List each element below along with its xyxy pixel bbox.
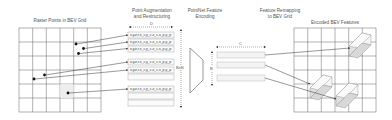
diagram-canvas: [0, 0, 392, 120]
pointnet-encoder: [190, 48, 203, 93]
d-label: D: [150, 21, 153, 26]
point-row-3: x,y,z,r,x_c,y_c,z_c,x_p,y_p: [130, 46, 171, 52]
point-row-5: x,y,z,r,x_c,y_c,z_c,x_p,y_p: [130, 67, 171, 73]
point-row-1: x,y,z,r,x_c,y_c,z_c,x_p,y_p: [130, 32, 171, 38]
feature-cube-2: [310, 75, 332, 100]
feature-cube-3: [336, 83, 358, 108]
c-label: C: [239, 41, 242, 46]
feature-bars: [217, 52, 265, 81]
point-to-row-arrows: [35, 35, 128, 93]
b-label: B: [210, 66, 213, 71]
raster-bev-grid: [19, 28, 101, 112]
point-row-2: x,y,z,r,x_c,y_c,z_c,x_p,y_p: [130, 39, 171, 45]
bn-label: BxN: [176, 65, 184, 70]
point-row-4: x,y,z,r,x_c,y_c,z_c,x_p,y_p: [130, 59, 171, 65]
point-row-6: x,y,z,r,x_c,y_c,z_c,x_p,y_p: [130, 86, 171, 92]
feature-cube-1: [349, 33, 371, 58]
highlighted-cell: [60, 84, 73, 98]
raster-points: [33, 43, 85, 95]
